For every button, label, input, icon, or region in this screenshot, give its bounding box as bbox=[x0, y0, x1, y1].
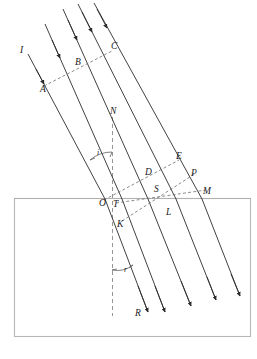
incident-ray-5-arrow bbox=[97, 9, 107, 28]
label-refracted-ray: R bbox=[134, 308, 141, 318]
refracted-ray-4-arrow bbox=[207, 277, 216, 300]
diagram-canvas: I A B C N i D E P O T S M K L r R bbox=[0, 0, 257, 359]
angle-refraction-tick-left bbox=[112, 269, 117, 270]
refracted-ray-2-arrow bbox=[155, 286, 165, 312]
label-point-t: T bbox=[113, 199, 119, 209]
incident-ray-2-arrow bbox=[52, 40, 60, 58]
label-angle-refraction: r bbox=[124, 265, 128, 274]
label-point-s: S bbox=[154, 184, 159, 194]
label-point-d: D bbox=[144, 167, 152, 177]
label-normal: N bbox=[109, 106, 117, 116]
label-point-c: C bbox=[111, 41, 118, 51]
wavefront-tsm bbox=[116, 190, 206, 203]
refracted-ray-3-arrow bbox=[181, 281, 191, 306]
incident-ray-1-arrow bbox=[36, 69, 44, 84]
incident-ray-3-arrow bbox=[68, 20, 77, 40]
label-point-b: B bbox=[75, 57, 81, 67]
wavefront-ode bbox=[104, 160, 179, 200]
label-point-l: L bbox=[165, 207, 171, 217]
label-point-e: E bbox=[175, 151, 182, 161]
label-incident-ray: I bbox=[19, 45, 24, 55]
refracted-ray-5-arrow bbox=[231, 274, 240, 296]
label-point-p: P bbox=[190, 168, 197, 178]
denser-medium-boundary bbox=[15, 199, 251, 337]
label-angle-incidence: i bbox=[97, 148, 99, 157]
angle-incidence-tick-right bbox=[110, 152, 112, 157]
wavefront-klp bbox=[122, 173, 196, 221]
label-point-m: M bbox=[202, 186, 212, 196]
refraction-diagram: I A B C N i D E P O T S M K L r R bbox=[0, 0, 257, 359]
label-point-a: A bbox=[39, 84, 46, 94]
label-point-k: K bbox=[116, 219, 124, 229]
label-point-o: O bbox=[99, 198, 106, 208]
incident-ray-4-arrow bbox=[82, 12, 92, 32]
